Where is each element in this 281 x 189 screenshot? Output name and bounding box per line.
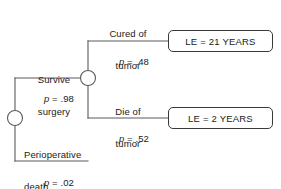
outcome-box-le-21-years: LE = 21 YEARS bbox=[168, 30, 273, 52]
branch-probability-survive-surgery: p = .98 bbox=[33, 82, 74, 115]
branch-label-perioperative-death-line1: Perioperative bbox=[24, 150, 104, 161]
decision-tree-diagram: Survive surgery p = .98 Perioperative de… bbox=[0, 0, 281, 189]
branch-probability-cured-of-tumor: p = .48 bbox=[108, 45, 149, 78]
branch-probability-die-of-tumor: p = .52 bbox=[108, 122, 149, 155]
branch-probability-die-of-tumor-value: p = .52 bbox=[119, 133, 149, 144]
chance-node-root bbox=[8, 111, 23, 126]
outcome-box-le-2-years: LE = 2 YEARS bbox=[168, 107, 273, 129]
clipped-caption-fragment bbox=[0, 181, 281, 189]
branch-label-cured-of-tumor-line1: Cured of bbox=[96, 29, 160, 40]
outcome-label-le-2-years: LE = 2 YEARS bbox=[188, 113, 253, 124]
branch-label-die-of-tumor-line1: Die of bbox=[96, 107, 160, 118]
branch-probability-cured-of-tumor-value: p = .48 bbox=[119, 56, 149, 67]
branch-probability-survive-surgery-value: p = .98 bbox=[44, 93, 74, 104]
outcome-label-le-21-years: LE = 21 YEARS bbox=[185, 36, 255, 47]
